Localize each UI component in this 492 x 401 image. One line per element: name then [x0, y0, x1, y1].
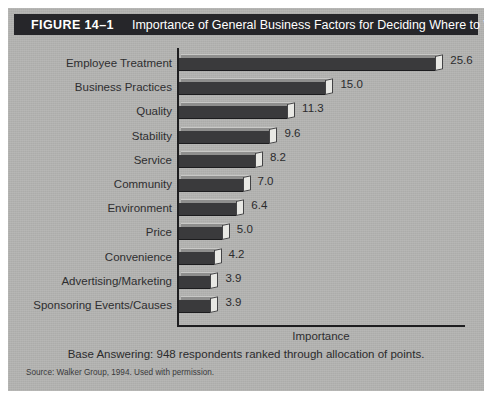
category-label: Employee Treatment — [8, 57, 172, 69]
bar — [178, 127, 277, 144]
chart-row: Employee Treatment25.6 — [8, 51, 484, 75]
figure-title-bar: FIGURE 14–1 Importance of General Busine… — [14, 14, 478, 35]
category-label: Community — [8, 178, 172, 190]
bar-body — [178, 155, 256, 168]
chart-row: Business Practices15.0 — [8, 75, 484, 99]
bar-end-cap — [236, 199, 244, 216]
bar — [178, 175, 251, 192]
chart-row: Service8.2 — [8, 148, 484, 172]
bar-end-cap — [287, 103, 295, 120]
bar-body — [178, 131, 270, 144]
source-note: Source: Walker Group, 1994. Used with pe… — [26, 368, 214, 377]
x-axis-label: Importance — [177, 330, 465, 342]
category-label: Price — [8, 226, 172, 238]
category-label: Environment — [8, 202, 172, 214]
base-answering-note: Base Answering: 948 respondents ranked t… — [8, 348, 484, 360]
bar — [178, 272, 218, 289]
category-label: Quality — [8, 105, 172, 117]
bar — [178, 296, 218, 313]
chart-row: Community7.0 — [8, 172, 484, 196]
bar-end-cap — [325, 78, 333, 95]
bar-end-cap — [269, 127, 277, 144]
chart-row: Stability9.6 — [8, 124, 484, 148]
bar-end-cap — [210, 272, 218, 289]
bar-end-cap — [222, 224, 230, 241]
bar-value-label: 3.9 — [225, 272, 241, 284]
category-label: Convenience — [8, 251, 172, 263]
bar-value-label: 3.9 — [225, 296, 241, 308]
bar — [178, 248, 222, 265]
bar — [178, 223, 230, 240]
category-label: Business Practices — [8, 81, 172, 93]
bar — [178, 199, 244, 216]
bar-body — [178, 106, 288, 119]
bar — [178, 54, 443, 71]
bar-value-label: 15.0 — [340, 78, 362, 90]
bar-body — [178, 82, 326, 95]
bar-value-label: 7.0 — [258, 175, 274, 187]
chart-row: Quality11.3 — [8, 99, 484, 123]
category-label: Advertising/Marketing — [8, 275, 172, 287]
figure-number-label: FIGURE 14–1 — [31, 18, 114, 32]
bar-value-label: 9.6 — [284, 127, 300, 139]
bar-value-label: 25.6 — [450, 54, 472, 66]
bar-value-label: 8.2 — [270, 151, 286, 163]
bar-body — [178, 276, 211, 289]
x-axis-line — [177, 325, 465, 327]
bar — [178, 78, 333, 95]
bar-value-label: 11.3 — [302, 102, 324, 114]
bar-body — [178, 203, 237, 216]
category-label: Sponsoring Events/Causes — [8, 299, 172, 311]
chart-row: Sponsoring Events/Causes3.9 — [8, 293, 484, 317]
chart-row: Advertising/Marketing3.9 — [8, 269, 484, 293]
bar-end-cap — [210, 296, 218, 313]
chart-row: Price5.0 — [8, 220, 484, 244]
category-label: Service — [8, 154, 172, 166]
chart-row: Environment6.4 — [8, 196, 484, 220]
category-label: Stability — [8, 130, 172, 142]
bar-body — [178, 252, 215, 265]
figure-title-label: Importance of General Business Factors f… — [132, 18, 492, 32]
bar — [178, 151, 263, 168]
bar-body — [178, 300, 211, 313]
bar-value-label: 6.4 — [251, 199, 267, 211]
figure-panel: FIGURE 14–1 Importance of General Busine… — [8, 8, 484, 391]
bar-end-cap — [214, 248, 222, 265]
bar — [178, 102, 295, 119]
bar-value-label: 5.0 — [237, 223, 253, 235]
bar-body — [178, 179, 244, 192]
bar-value-label: 4.2 — [229, 248, 245, 260]
bar-end-cap — [435, 54, 443, 71]
bar-chart: Employee Treatment25.6Business Practices… — [8, 48, 484, 328]
bar-end-cap — [243, 175, 251, 192]
bar-body — [178, 227, 223, 240]
bar-end-cap — [255, 151, 263, 168]
bar-body — [178, 58, 436, 71]
chart-row: Convenience4.2 — [8, 245, 484, 269]
y-axis-line — [177, 48, 179, 327]
